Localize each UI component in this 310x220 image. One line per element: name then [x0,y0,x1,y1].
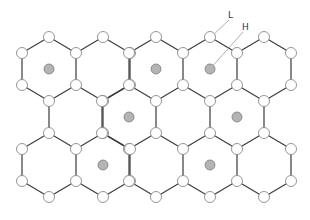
vertex-atom-node [205,128,216,139]
vertex-atom-node [259,96,270,107]
vertex-atom-node [151,32,162,43]
vertex-atom-node [44,32,55,43]
vertex-atom-node [71,48,82,59]
vertex-atom-node [286,176,297,187]
vertex-atom-node [98,32,109,43]
vertex-atom-node [259,192,270,203]
vertex-atom-node [178,48,189,59]
vertex-atom-node [17,176,28,187]
vertex-atom-node [71,144,82,155]
vertex-atom-node [232,176,243,187]
vertex-atom-node [259,32,270,43]
center-atom-dot [205,160,215,170]
center-atom-dot [205,64,215,74]
vertex-atom-node [124,80,135,91]
center-atom-dot [151,64,161,74]
vertex-atom-node [178,80,189,91]
label-leader-lines [210,20,243,69]
vertex-atom-node [151,96,162,107]
center-atom-dot [98,160,108,170]
vertex-atom-node [151,128,162,139]
vertex-atom-node [205,192,216,203]
lattice-edges [22,37,291,197]
vertex-atom-node [97,96,108,107]
vertex-atom-node [178,144,189,155]
vertex-atom-node [151,192,162,203]
vertex-atom-node [205,96,216,107]
honeycomb-lattice-diagram: L H [0,0,310,220]
vertex-atom-node [124,176,135,187]
vertex-atom-node [124,48,135,59]
vertex-atom-node [71,176,82,187]
vertex-atom-node [44,192,55,203]
center-atom-dot [44,64,54,74]
vertex-atom-node [232,48,243,59]
vertex-atom-node [286,48,297,59]
vertex-atom-node [205,32,216,43]
vertex-atom-node [17,144,28,155]
label-H: H [242,22,249,32]
label-L: L [228,10,233,20]
center-atom-dot [124,112,134,122]
diagram-labels: L H [228,10,249,32]
vertex-atom-node [71,80,82,91]
vertex-atom-node [44,96,55,107]
vertex-atom-node [98,192,109,203]
vertex-atom-node [17,48,28,59]
vertex-atom-node [44,128,55,139]
vertex-atom-node [232,80,243,91]
vertex-atom-node [286,80,297,91]
vertex-atom-node [125,144,136,155]
vertex-atom-node [259,128,270,139]
vertex-atom-node [286,144,297,155]
vertex-atom-node [232,144,243,155]
vertex-atom-node [17,80,28,91]
center-atom-dot [232,112,242,122]
vertex-atom-node [97,128,108,139]
vertex-atom-node [178,176,189,187]
